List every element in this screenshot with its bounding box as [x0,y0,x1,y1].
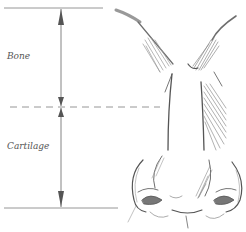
right-bridge-hatching [193,38,219,70]
right-nostril [214,196,234,205]
left-bridge-hatching [143,38,171,72]
arrowhead-up-icon [58,9,64,25]
nose-sketch [116,10,242,228]
right-side-hatching [204,84,226,150]
right-brow-stroke [212,16,236,40]
left-brow-stroke [116,10,140,22]
nose-proportion-diagram: Bone Cartilage [0,0,246,232]
cartilage-label: Cartilage [7,141,49,151]
arrowhead-down-icon [58,97,64,106]
arrowhead-up-icon [58,108,64,117]
measurement-guides [4,8,160,208]
left-nostril [142,196,162,205]
arrowhead-down-icon [58,191,64,207]
nose-left-edge [168,74,172,150]
columella [172,210,202,213]
dimension-arrows [58,9,64,207]
nose-right-edge [201,82,204,150]
bone-label: Bone [7,51,30,61]
diagram-graphics [0,0,246,232]
